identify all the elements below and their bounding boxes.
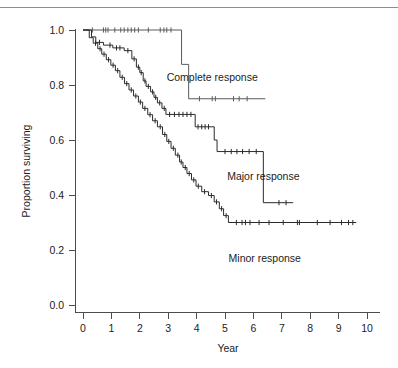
censor-mark-group [92, 27, 247, 101]
y-tick-group: 0.00.20.40.60.81.0 [49, 24, 75, 311]
series-3 [83, 30, 356, 225]
x-tick-group: 012345678910 [80, 313, 373, 335]
series-group [83, 27, 356, 225]
y-tick-label: 0.8 [49, 79, 64, 91]
kaplan-meier-plot: 0.00.20.40.60.81.0 012345678910 Complete… [0, 0, 398, 368]
x-axis: 012345678910 [76, 313, 381, 335]
x-tick-label: 4 [194, 322, 200, 334]
x-tick-label: 8 [307, 322, 313, 334]
censor-mark-group [95, 41, 352, 226]
x-tick-label: 1 [108, 322, 114, 334]
x-tick-label: 6 [250, 322, 256, 334]
y-tick-label: 0.2 [49, 244, 64, 256]
x-tick-label: 7 [279, 322, 285, 334]
y-tick-label: 0.6 [49, 134, 64, 146]
x-tick-label: 0 [80, 322, 86, 334]
x-tick-label: 2 [137, 322, 143, 334]
y-tick-label: 1.0 [49, 24, 64, 36]
x-tick-label: 9 [336, 322, 342, 334]
x-tick-label: 5 [222, 322, 228, 334]
series-label-3: Minor response [229, 252, 302, 264]
y-axis: 0.00.20.40.60.81.0 [49, 24, 75, 313]
series-label-1: Complete response [167, 71, 258, 83]
series-label-2: Major response [227, 170, 300, 182]
y-tick-label: 0.0 [49, 299, 64, 311]
x-axis-title: Year [217, 342, 239, 354]
survival-curve [83, 30, 356, 223]
x-tick-label: 3 [165, 322, 171, 334]
y-axis-title: Proportion surviving [20, 124, 32, 217]
survival-chart-figure: 0.00.20.40.60.81.0 012345678910 Complete… [0, 0, 398, 368]
y-tick-label: 0.4 [49, 189, 64, 201]
x-tick-label: 10 [361, 322, 373, 334]
